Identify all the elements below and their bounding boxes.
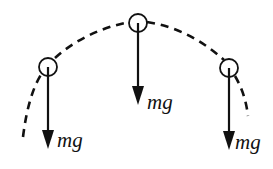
gravity-arrow-right xyxy=(223,68,235,150)
force-label-left: mg xyxy=(57,130,83,151)
force-label-right: mg xyxy=(235,132,261,153)
trajectory-dashed-path xyxy=(23,22,248,137)
projectile-diagram: mg mg mg xyxy=(0,0,273,169)
diagram-graphics xyxy=(0,0,273,169)
gravity-arrow-left xyxy=(42,67,54,149)
gravity-arrow-top xyxy=(132,23,144,105)
force-label-top: mg xyxy=(147,92,173,113)
